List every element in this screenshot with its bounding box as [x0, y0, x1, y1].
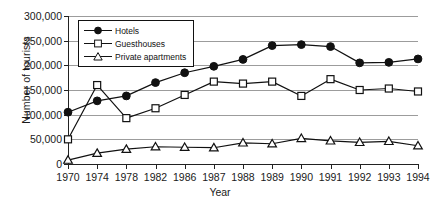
x-tick-label: 1970 — [56, 171, 79, 183]
x-axis-title: Year — [0, 186, 440, 198]
y-tick-label: 100,000 — [24, 109, 62, 121]
data-point — [269, 78, 276, 85]
y-tick-label: 250,000 — [24, 35, 62, 47]
y-tick-label: 50,000 — [30, 133, 62, 145]
legend-label-private-apartments: Private apartments — [113, 52, 186, 62]
data-point — [297, 134, 306, 142]
data-point — [327, 76, 334, 83]
series-guesthouses — [65, 76, 422, 143]
data-point — [152, 105, 159, 112]
data-point — [93, 97, 101, 105]
data-point — [356, 87, 363, 94]
filled-circle-icon — [83, 24, 113, 37]
x-tick-label: 1994 — [406, 171, 429, 183]
legend-label-hotels: Hotels — [113, 26, 139, 36]
data-point — [181, 91, 188, 98]
y-tick-label: 200,000 — [24, 59, 62, 71]
x-tick-label: 1986 — [173, 171, 196, 183]
data-point — [415, 88, 422, 95]
tourists-line-chart: Number of tourists Year 050,000100,00015… — [0, 0, 440, 207]
x-tick-label: 1993 — [377, 171, 400, 183]
legend-item-hotels: Hotels — [83, 24, 186, 37]
open-triangle-icon — [83, 50, 113, 63]
x-tick-label: 1992 — [348, 171, 371, 183]
x-tick-label: 1978 — [115, 171, 138, 183]
data-point — [239, 56, 247, 64]
legend-item-guesthouses: Guesthouses — [83, 37, 186, 50]
data-point — [65, 136, 72, 143]
data-point — [123, 115, 130, 122]
data-point — [268, 42, 276, 50]
data-point — [181, 69, 189, 77]
x-tick-label: 1990 — [290, 171, 313, 183]
data-point — [210, 78, 217, 85]
data-point — [297, 41, 305, 49]
data-point — [152, 79, 160, 87]
y-tick-label: 150,000 — [24, 84, 62, 96]
legend-item-private-apartments: Private apartments — [83, 50, 186, 63]
y-tick-label: 0 — [56, 158, 62, 170]
x-tick-label: 1982 — [144, 171, 167, 183]
open-square-icon — [83, 37, 113, 50]
data-point — [64, 108, 72, 116]
data-point — [385, 137, 394, 145]
data-point — [327, 43, 335, 51]
x-tick-label: 1987 — [202, 171, 225, 183]
data-point — [210, 62, 218, 70]
series-private-apartments — [64, 134, 423, 163]
data-point — [298, 92, 305, 99]
x-tick-label: 1974 — [85, 171, 108, 183]
x-tick-label: 1989 — [260, 171, 283, 183]
data-point — [385, 58, 393, 66]
y-tick-label: 300,000 — [24, 10, 62, 22]
chart-legend: Hotels Guesthouses Private apartments — [78, 20, 194, 67]
data-point — [122, 92, 130, 100]
legend-label-guesthouses: Guesthouses — [113, 39, 165, 49]
data-point — [356, 59, 364, 67]
data-point — [385, 85, 392, 92]
x-tick-label: 1988 — [231, 171, 254, 183]
data-point — [94, 82, 101, 89]
data-point — [239, 138, 248, 146]
x-tick-label: 1991 — [319, 171, 342, 183]
data-point — [240, 80, 247, 87]
data-point — [414, 55, 422, 63]
